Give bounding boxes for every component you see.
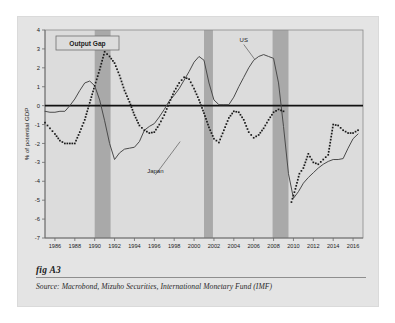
- japan-data-dot: [109, 56, 111, 58]
- japan-data-dot: [59, 140, 61, 142]
- japan-data-dot: [231, 113, 233, 115]
- japan-data-dot: [76, 137, 78, 139]
- y-tick-label: -6: [35, 216, 40, 222]
- japan-data-dot: [172, 93, 174, 95]
- japan-data-dot: [131, 106, 133, 108]
- japan-data-dot: [69, 143, 71, 145]
- x-tick-label: 1988: [69, 243, 81, 249]
- japan-data-dot: [271, 114, 273, 116]
- japan-data-dot: [114, 62, 116, 64]
- japan-data-dot: [325, 156, 327, 158]
- figure-source-line: Source: Macrobond, Mizuho Securities, In…: [36, 282, 366, 291]
- japan-data-dot: [94, 85, 96, 87]
- japan-data-dot: [331, 130, 333, 132]
- japan-data-dot: [241, 116, 243, 118]
- japan-data-dot: [322, 159, 324, 161]
- x-tick-label: 2004: [228, 243, 240, 249]
- japan-data-dot: [54, 133, 56, 135]
- japan-data-dot: [255, 136, 257, 138]
- japan-data-dot: [205, 118, 207, 120]
- x-tick-label: 2010: [287, 243, 299, 249]
- japan-data-dot: [177, 85, 179, 87]
- japan-data-dot: [317, 163, 319, 165]
- japan-data-dot: [175, 88, 177, 90]
- japan-data-dot: [226, 123, 228, 125]
- y-tick-label: -2: [35, 141, 40, 147]
- japan-data-dot: [79, 131, 81, 133]
- japan-data-dot: [171, 96, 173, 98]
- japan-data-dot: [124, 90, 126, 92]
- japan-data-dot: [193, 88, 195, 90]
- japan-data-dot: [57, 138, 59, 140]
- japan-data-dot: [144, 129, 146, 131]
- y-axis-ticks: 43210-1-2-3-4-5-6-7: [35, 27, 45, 241]
- japan-data-dot: [86, 113, 88, 115]
- y-tick-label: 1: [37, 84, 40, 90]
- japan-data-dot: [245, 125, 247, 127]
- x-tick-label: 2000: [188, 243, 200, 249]
- japan-data-dot: [56, 135, 58, 137]
- japan-data-dot: [106, 53, 108, 55]
- japan-data-dot: [135, 117, 137, 119]
- japan-data-dot: [123, 87, 125, 89]
- chart-title-box: Output Gap: [56, 36, 119, 50]
- y-tick-label: 3: [37, 46, 40, 52]
- y-tick-label: -7: [35, 235, 40, 241]
- japan-data-dot: [345, 131, 347, 133]
- japan-data-dot: [335, 124, 337, 126]
- japan-data-dot: [133, 112, 135, 114]
- japan-data-dot: [139, 125, 141, 127]
- japan-data-dot: [92, 91, 94, 93]
- japan-data-dot: [188, 78, 190, 80]
- y-tick-label: -4: [35, 178, 41, 184]
- japan-data-dot: [309, 156, 311, 158]
- japan-data-dot: [127, 98, 129, 100]
- japan-data-dot: [299, 173, 301, 175]
- x-tick-label: 1998: [168, 243, 180, 249]
- japan-data-dot: [230, 115, 232, 117]
- japan-data-dot: [352, 132, 354, 134]
- output-gap-chart: 43210-1-2-3-4-5-6-7 19861988199019921994…: [18, 17, 378, 267]
- chart-title: Output Gap: [69, 40, 105, 48]
- japan-data-dot: [192, 85, 194, 87]
- japan-data-dot: [99, 69, 101, 71]
- japan-data-dot: [71, 143, 73, 145]
- figure-caption-block: fig A3 Source: Macrobond, Mizuho Securit…: [36, 265, 366, 291]
- japan-data-dot: [119, 75, 121, 77]
- japan-data-dot: [126, 95, 128, 97]
- japan-data-dot: [337, 125, 339, 127]
- figure-card: 43210-1-2-3-4-5-6-7 19861988199019921994…: [18, 17, 378, 306]
- japan-data-dot: [163, 114, 165, 116]
- japan-data-dot: [327, 154, 329, 156]
- japan-data-dot: [166, 108, 168, 110]
- japan-data-dot: [347, 132, 349, 134]
- x-tick-label: 2002: [208, 243, 220, 249]
- japan-data-dot: [355, 131, 357, 133]
- japan-data-dot: [98, 72, 100, 74]
- japan-data-dot: [165, 111, 167, 113]
- japan-data-dot: [208, 127, 210, 129]
- japan-data-dot: [203, 112, 205, 114]
- japan-data-dot: [329, 145, 331, 147]
- japan-data-dot: [238, 111, 240, 113]
- japan-data-dot: [151, 132, 153, 134]
- japan-data-dot: [261, 130, 263, 132]
- figure-number-label: fig A3: [36, 265, 366, 275]
- japan-data-dot: [62, 141, 64, 143]
- japan-data-dot: [306, 159, 308, 161]
- japan-data-dot: [221, 136, 223, 138]
- caption-divider: [36, 277, 366, 278]
- japan-data-dot: [209, 129, 211, 131]
- japan-data-dot: [153, 131, 155, 133]
- japan-data-dot: [158, 124, 160, 126]
- japan-data-dot: [64, 143, 66, 145]
- japan-data-dot: [116, 68, 118, 70]
- y-tick-label: 4: [37, 27, 41, 33]
- japan-data-dot: [315, 162, 317, 164]
- japan-data-dot: [213, 138, 215, 140]
- japan-data-dot: [130, 104, 132, 106]
- japan-data-dot: [183, 76, 185, 78]
- japan-data-dot: [88, 105, 90, 107]
- japan-data-dot: [243, 119, 245, 121]
- japan-data-dot: [186, 77, 188, 79]
